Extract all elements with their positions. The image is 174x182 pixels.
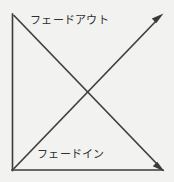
fade-out-curve	[14, 15, 159, 166]
fade-in-label: フェードイン	[37, 149, 105, 161]
fade-in-curve	[14, 20, 158, 170]
fade-in-arrow-icon	[152, 14, 164, 24]
fade-curve-diagram: フェードアウト フェードイン	[0, 0, 174, 182]
fade-out-label: フェードアウト	[30, 15, 109, 27]
